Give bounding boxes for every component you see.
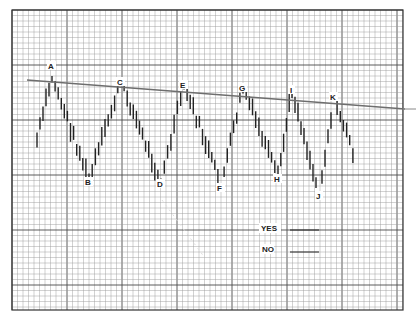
yes-label: YES <box>261 224 278 233</box>
label-D: D <box>157 180 163 189</box>
no-label: NO <box>262 245 274 254</box>
label-G: G <box>239 84 245 93</box>
answer-fields: YES NO <box>259 223 319 254</box>
label-I: I <box>290 86 292 95</box>
label-A: A <box>48 62 54 71</box>
label-E: E <box>180 81 186 90</box>
faint-trace <box>162 200 205 258</box>
label-F: F <box>217 184 222 193</box>
label-C: C <box>117 78 123 87</box>
label-K: K <box>330 93 336 102</box>
label-J: J <box>316 192 320 201</box>
label-H: H <box>274 175 280 184</box>
price-chart: A B C D E F G H I J K YES NO <box>0 0 416 319</box>
chart-frame <box>12 10 403 310</box>
graph-paper-grid <box>12 10 403 310</box>
label-B: B <box>85 178 91 187</box>
